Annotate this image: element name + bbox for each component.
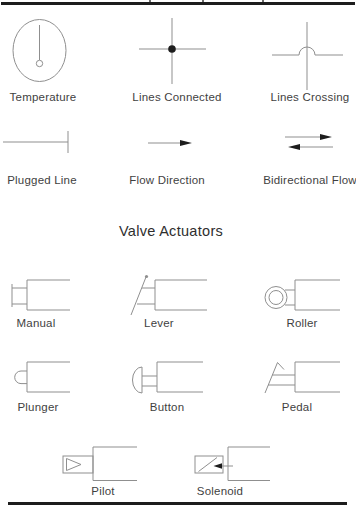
label-lever: Lever <box>144 318 174 330</box>
label-pilot: Pilot <box>91 486 114 498</box>
label-lines-crossing: Lines Crossing <box>271 92 350 104</box>
symbols-page: Temperature Lines Connected Lines Crossi… <box>0 0 356 510</box>
label-roller: Roller <box>286 318 317 330</box>
lines-connected-icon <box>139 18 206 84</box>
section-heading-valve-actuators: Valve Actuators <box>119 224 223 239</box>
label-button: Button <box>150 402 184 414</box>
label-temperature: Temperature <box>10 92 77 104</box>
label-lines-connected: Lines Connected <box>132 92 221 104</box>
label-bidirectional-flow: Bidirectional Flow <box>263 175 356 187</box>
solenoid-actuator-icon <box>195 447 270 481</box>
bottom-rule <box>8 502 347 505</box>
plunger-actuator-icon <box>15 362 70 392</box>
pilot-actuator-icon <box>63 447 137 481</box>
bidirectional-flow-icon <box>285 134 333 150</box>
label-plugged-line: Plugged Line <box>7 175 77 187</box>
lever-actuator-icon <box>131 275 207 315</box>
pedal-actuator-icon <box>265 362 340 393</box>
label-solenoid: Solenoid <box>197 486 243 498</box>
button-actuator-icon <box>133 362 204 393</box>
manual-actuator-icon <box>12 280 70 310</box>
label-flow-direction: Flow Direction <box>129 175 205 187</box>
roller-actuator-icon <box>265 280 340 310</box>
plugged-line-icon <box>3 131 68 153</box>
label-manual: Manual <box>17 318 56 330</box>
label-pedal: Pedal <box>282 402 312 414</box>
flow-direction-icon <box>148 140 192 146</box>
temperature-icon <box>13 20 66 82</box>
symbols-artwork <box>0 0 356 510</box>
lines-crossing-icon <box>272 22 343 90</box>
label-plunger: Plunger <box>17 402 58 414</box>
